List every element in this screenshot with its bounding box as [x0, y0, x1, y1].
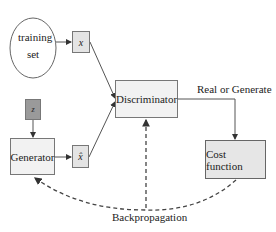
generator-label: Generator — [11, 151, 55, 163]
edge-discriminator-to-cost — [178, 99, 235, 139]
cost-function-label: Cost function — [206, 148, 265, 172]
x-node: x — [72, 31, 90, 53]
x-hat-node: x̂ — [72, 145, 89, 168]
backpropagation-label: Backpropagation — [112, 211, 187, 223]
generator-node: Generator — [10, 138, 55, 175]
edge-x-to-discriminator — [90, 42, 115, 98]
x-label: x — [79, 37, 83, 48]
training-set-label-1: training — [18, 31, 48, 43]
edge-xhat-to-discriminator — [89, 102, 115, 157]
training-set-label-2: set — [18, 48, 48, 60]
cost-function-node: Cost function — [205, 140, 266, 179]
discriminator-node: Discriminator — [115, 80, 178, 118]
z-node: z — [25, 99, 41, 120]
real-or-generate-label: Real or Generate — [197, 83, 272, 95]
x-hat-label: x̂ — [78, 151, 82, 162]
discriminator-label: Discriminator — [116, 93, 177, 105]
z-label: z — [31, 105, 34, 114]
edge-backprop-to-generator — [35, 178, 236, 210]
